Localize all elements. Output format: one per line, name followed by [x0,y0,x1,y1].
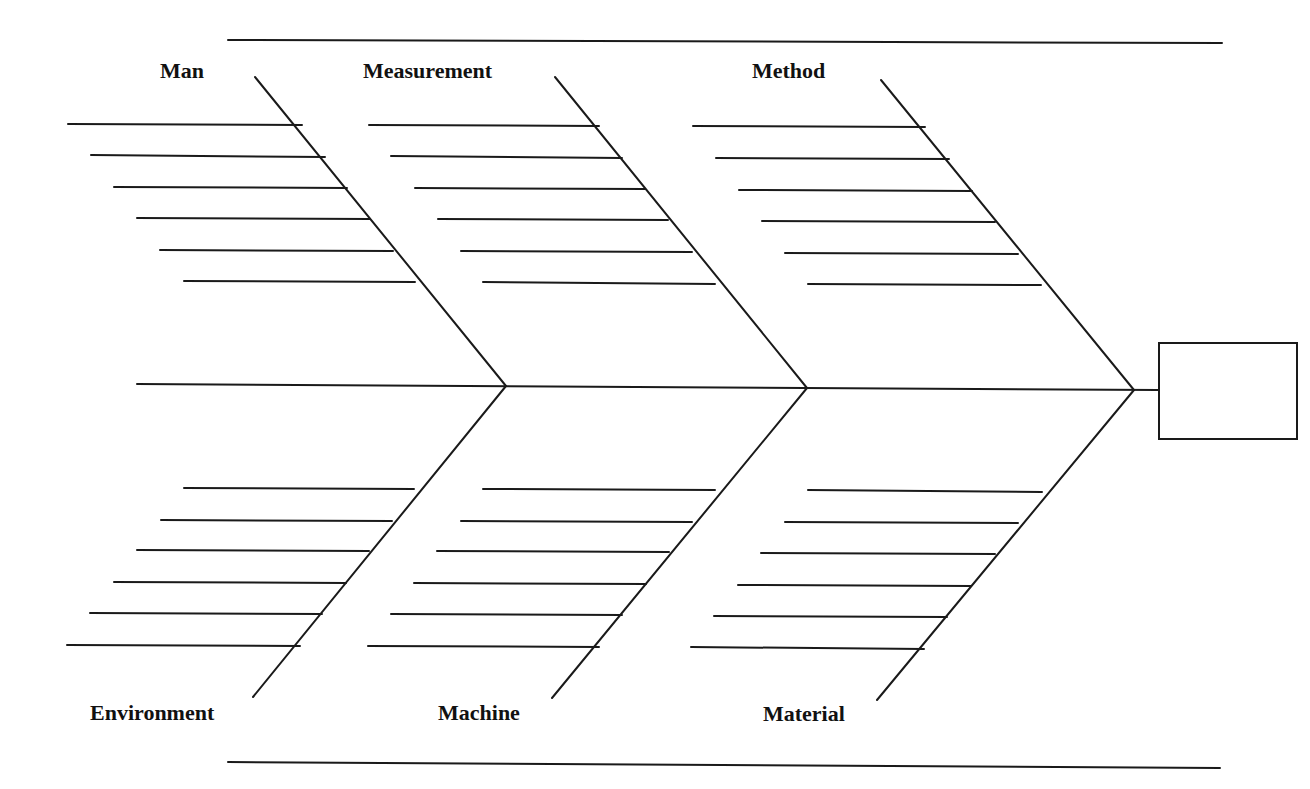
cause-line[interactable] [137,218,370,219]
bone-group-measurement [369,77,807,388]
cause-line[interactable] [714,616,947,617]
cause-line[interactable] [739,190,972,191]
category-label-measurement: Measurement [363,60,492,82]
cause-line[interactable] [90,613,322,614]
category-label-machine: Machine [438,702,520,724]
bone-line-man [255,77,506,386]
category-label-environment: Environment [90,702,214,724]
cause-line[interactable] [716,158,949,159]
bone-line-measurement [555,77,807,388]
bone-group-machine [368,388,807,698]
cause-line[interactable] [693,126,925,127]
cause-line[interactable] [785,522,1018,523]
cause-line[interactable] [762,221,995,222]
bone-line-environment [253,386,506,697]
cause-line[interactable] [184,281,415,282]
bone-line-machine [552,388,807,698]
effect-head-box[interactable] [1158,342,1298,440]
cause-line[interactable] [68,124,302,125]
bone-group-method [693,80,1134,390]
bone-line-material [877,390,1134,700]
cause-line[interactable] [391,614,622,615]
cause-line[interactable] [738,585,971,586]
cause-line[interactable] [137,550,369,551]
cause-line[interactable] [437,551,669,552]
cause-line[interactable] [414,583,646,584]
cause-line[interactable] [67,645,300,646]
cause-line[interactable] [91,155,325,157]
cause-line[interactable] [161,520,392,521]
top-rule [228,40,1222,43]
cause-line[interactable] [691,647,924,649]
cause-line[interactable] [483,489,715,490]
cause-line[interactable] [808,284,1041,285]
cause-line[interactable] [391,156,622,158]
bone-group-material [691,390,1134,700]
category-label-man: Man [160,60,204,82]
bone-group-man [68,77,506,386]
cause-line[interactable] [114,187,347,188]
cause-line[interactable] [483,282,715,284]
spine-line [137,384,1158,390]
cause-line[interactable] [114,582,346,583]
cause-line[interactable] [160,250,393,251]
fishbone-canvas [0,0,1310,789]
cause-line[interactable] [438,219,668,220]
cause-line[interactable] [808,490,1042,492]
cause-line[interactable] [415,188,645,189]
bone-group-environment [67,386,506,697]
category-label-method: Method [752,60,825,82]
cause-line[interactable] [184,488,414,489]
cause-line[interactable] [785,253,1018,254]
category-label-material: Material [763,703,845,725]
cause-line[interactable] [369,125,599,126]
cause-line[interactable] [368,646,599,647]
cause-line[interactable] [461,521,692,522]
cause-line[interactable] [461,251,692,252]
bottom-rule [228,762,1220,768]
cause-line[interactable] [761,553,995,554]
